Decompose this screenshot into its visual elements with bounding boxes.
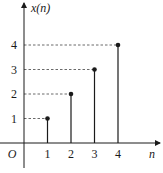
data-point — [69, 92, 74, 97]
data-point — [92, 67, 97, 72]
origin-label: O — [8, 147, 17, 161]
x-tick-label: 2 — [68, 147, 74, 161]
stems — [48, 45, 119, 143]
stem-plot: x(n) n O 1234 1234 — [0, 0, 163, 173]
y-axis-label: x(n) — [30, 1, 50, 15]
data-point — [116, 43, 121, 48]
x-tick-label: 4 — [115, 147, 121, 161]
data-point — [45, 116, 50, 121]
y-tick-label: 4 — [11, 38, 17, 52]
y-tick-labels: 1234 — [11, 38, 17, 126]
x-axis-label: n — [149, 147, 155, 161]
y-tick-label: 1 — [11, 112, 17, 126]
x-tick-labels: 1234 — [45, 147, 122, 161]
y-tick-label: 3 — [11, 63, 17, 77]
x-tick-label: 3 — [92, 147, 98, 161]
x-tick-label: 1 — [45, 147, 51, 161]
data-points — [45, 43, 120, 121]
y-tick-label: 2 — [11, 87, 17, 101]
